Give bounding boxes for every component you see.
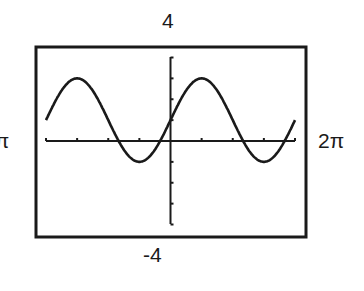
axes — [46, 57, 295, 225]
graph-window — [0, 0, 364, 291]
